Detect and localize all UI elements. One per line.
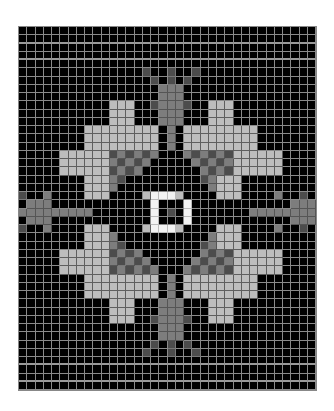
grid-cell [126,176,134,184]
grid-cell [283,242,291,250]
grid-cell [201,308,209,316]
grid-cell [242,291,250,299]
grid-cell [192,258,200,266]
grid-cell [168,85,176,93]
grid-cell [77,266,85,274]
grid-cell [159,316,167,324]
grid-cell [36,242,44,250]
grid-cell [242,365,250,373]
grid-cell [77,357,85,365]
grid-cell [36,44,44,52]
grid-cell [176,341,184,349]
grid-cell [201,176,209,184]
grid-cell [135,77,143,85]
grid-cell [225,44,233,52]
grid-cell [300,68,308,76]
grid-cell [60,365,68,373]
grid-cell [60,143,68,151]
grid-cell [267,159,275,167]
grid-cell [275,27,283,35]
grid-cell [52,382,60,390]
grid-cell [283,176,291,184]
grid-cell [201,316,209,324]
grid-cell [300,374,308,382]
grid-cell [192,110,200,118]
grid-cell [258,250,266,258]
grid-cell [110,200,118,208]
grid-cell [300,77,308,85]
grid-cell [225,316,233,324]
grid-cell [242,60,250,68]
grid-cell [308,200,316,208]
grid-cell [110,118,118,126]
grid-cell [135,233,143,241]
grid-cell [192,60,200,68]
grid-cell [135,151,143,159]
grid-cell [36,308,44,316]
grid-cell [168,44,176,52]
grid-cell [102,233,110,241]
grid-cell [267,349,275,357]
grid-cell [217,225,225,233]
grid-cell [110,93,118,101]
grid-cell [291,242,299,250]
grid-cell [85,250,93,258]
grid-cell [308,258,316,266]
grid-cell [242,275,250,283]
grid-cell [93,68,101,76]
grid-cell [52,258,60,266]
grid-cell [209,143,217,151]
grid-cell [44,266,52,274]
grid-cell [217,341,225,349]
grid-cell [267,200,275,208]
grid-cell [300,200,308,208]
grid-cell [250,275,258,283]
grid-cell [250,217,258,225]
grid-cell [135,349,143,357]
grid-cell [291,143,299,151]
grid-cell [300,184,308,192]
grid-cell [93,266,101,274]
grid-cell [118,266,126,274]
grid-cell [201,299,209,307]
grid-cell [159,341,167,349]
grid-cell [242,110,250,118]
grid-cell [234,374,242,382]
grid-cell [60,316,68,324]
grid-cell [267,209,275,217]
grid-cell [184,266,192,274]
grid-cell [52,275,60,283]
grid-cell [135,299,143,307]
grid-cell [225,275,233,283]
grid-cell [93,134,101,142]
grid-cell [19,110,27,118]
grid-cell [118,349,126,357]
grid-cell [19,225,27,233]
grid-cell [275,374,283,382]
grid-cell [44,275,52,283]
grid-cell [110,357,118,365]
grid-cell [102,291,110,299]
grid-cell [184,52,192,60]
grid-cell [217,357,225,365]
grid-cell [267,167,275,175]
grid-cell [250,184,258,192]
grid-cell [176,374,184,382]
grid-cell [19,374,27,382]
grid-cell [159,283,167,291]
grid-cell [225,27,233,35]
grid-cell [176,291,184,299]
grid-cell [126,242,134,250]
grid-cell [176,357,184,365]
grid-cell [93,184,101,192]
grid-cell [151,77,159,85]
grid-cell [44,77,52,85]
grid-cell [77,217,85,225]
grid-cell [217,324,225,332]
grid-cell [184,143,192,151]
grid-cell [118,299,126,307]
grid-cell [19,382,27,390]
grid-cell [118,242,126,250]
grid-cell [201,77,209,85]
grid-cell [44,316,52,324]
